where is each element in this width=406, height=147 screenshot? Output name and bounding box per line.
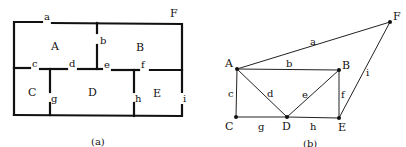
edge-label-c: c <box>228 88 234 99</box>
door-label-g: g <box>51 93 58 104</box>
edge-label-e: e <box>302 89 308 100</box>
vertex-c <box>234 115 238 119</box>
room-label-b: B <box>136 41 144 54</box>
vertex-a <box>235 67 239 71</box>
edge-c <box>236 69 237 117</box>
edge-label-g: g <box>258 121 265 132</box>
floor-plan: A B C D E F a b c d e f g h i (a) <box>14 7 186 147</box>
vertex-label-f: F <box>393 10 401 23</box>
edge-label-d: d <box>267 88 274 99</box>
room-label-c: C <box>28 86 36 99</box>
edge-d <box>237 69 287 117</box>
vertex-label-e: E <box>338 121 346 134</box>
door-label-h: h <box>135 93 142 104</box>
edge-label-h: h <box>310 121 317 132</box>
graph: A B C D E F a b c d e f g h i (b) <box>224 10 401 147</box>
vertex-label-a: A <box>224 57 234 70</box>
room-label-a: A <box>50 40 60 53</box>
edge-label-a: a <box>310 36 316 47</box>
vertex-label-d: D <box>282 120 291 133</box>
vertex-f <box>388 20 392 24</box>
room-label-d: D <box>88 86 97 99</box>
vertex-b <box>337 68 341 72</box>
caption-a: (a) <box>91 136 105 147</box>
door-label-i: i <box>183 93 186 104</box>
vertex-label-c: C <box>225 120 233 133</box>
room-label-e: E <box>153 87 161 100</box>
door-label-b: b <box>100 35 106 46</box>
caption-b: (b) <box>303 138 317 147</box>
edge-h <box>287 117 339 118</box>
door-label-f: f <box>141 59 146 70</box>
edge-b <box>237 69 339 70</box>
vertex-label-b: B <box>342 59 350 72</box>
edge-label-b: b <box>286 58 292 69</box>
edge-label-f: f <box>341 89 346 100</box>
door-label-d: d <box>69 58 76 69</box>
edge-label-i: i <box>366 67 369 78</box>
outside-label-f: F <box>170 7 178 20</box>
vertex-e <box>337 116 341 120</box>
figure-canvas: A B C D E F a b c d e f g h i (a) <box>0 0 406 147</box>
door-label-e: e <box>104 59 110 70</box>
vertex-d <box>285 115 289 119</box>
door-label-c: c <box>32 58 38 69</box>
door-label-a: a <box>44 11 50 22</box>
wall-right-bottom <box>14 105 182 116</box>
edge-e <box>287 70 339 117</box>
